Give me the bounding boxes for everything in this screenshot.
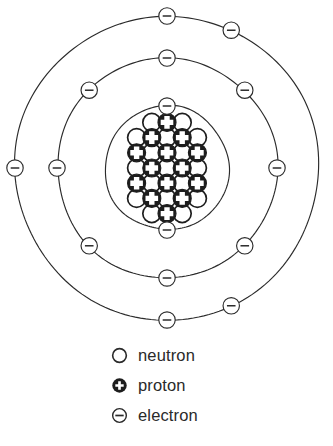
electron-marker [269,160,285,176]
nucleus-proton [128,144,146,162]
electron-marker [81,82,97,98]
nucleus-proton [158,144,176,162]
nucleus-proton [143,159,161,177]
electron-marker [159,8,175,24]
legend: neutron proton electron [0,340,333,446]
electron-marker [159,270,175,286]
electron-marker [49,160,65,176]
atom-svg [0,0,333,340]
legend-item-neutron: neutron [0,340,333,370]
circle-minus-icon [110,406,129,425]
legend-label-proton: proton [138,377,186,394]
nucleus-proton [188,144,206,162]
nucleus-proton [158,205,176,223]
electron-marker [237,238,253,254]
electron-marker [223,22,239,38]
electron-marker [159,312,175,328]
nucleus-proton [143,129,161,147]
legend-item-proton: proton [0,370,333,400]
nucleus-proton [143,189,161,207]
nucleus-proton [188,174,206,192]
electron-marker [159,222,175,238]
legend-label-electron: electron [138,407,198,424]
atom-diagram [0,0,333,340]
electron-marker [81,238,97,254]
electron-marker [237,82,253,98]
nucleus-proton [158,174,176,192]
nucleus-proton [173,159,191,177]
filled-circle-plus-icon [110,376,129,395]
electron-marker [223,298,239,314]
legend-item-electron: electron [0,400,333,430]
nucleus-proton [158,113,176,131]
open-circle-icon [110,346,129,365]
electron-marker [159,98,175,114]
nucleus-proton [173,129,191,147]
nucleus-group [128,113,207,222]
electron-marker [7,160,23,176]
legend-label-neutron: neutron [138,347,195,364]
nucleus-proton [128,174,146,192]
electron-marker [159,50,175,66]
nucleus-proton [173,189,191,207]
